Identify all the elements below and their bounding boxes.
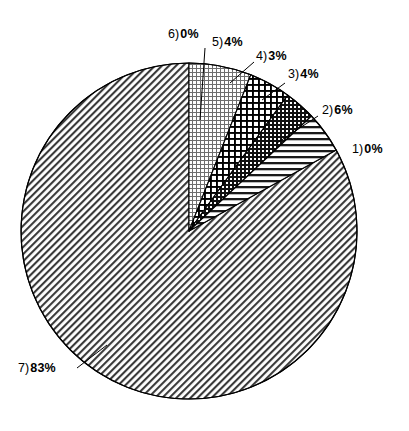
pie-label-slice-6: 6)0% bbox=[168, 28, 199, 41]
pie-label-index-1: 1) bbox=[352, 142, 363, 156]
pie-label-percent-2: 6% bbox=[334, 103, 352, 117]
pie-label-percent-1: 0% bbox=[364, 142, 382, 156]
pie-chart-canvas bbox=[0, 0, 409, 431]
pie-label-percent-3: 4% bbox=[300, 67, 318, 81]
pie-label-percent-6: 0% bbox=[180, 27, 198, 41]
pie-label-slice-2: 2)6% bbox=[322, 104, 353, 117]
pie-label-slice-1: 1)0% bbox=[352, 143, 383, 156]
pie-label-index-4: 4) bbox=[256, 49, 267, 63]
pie-label-index-5: 5) bbox=[212, 35, 223, 49]
pie-label-percent-5: 4% bbox=[224, 35, 242, 49]
pie-chart: 6)0% 5)4% 4)3% 3)4% 2)6% 1)0% 7)83% bbox=[0, 0, 409, 431]
pie-label-percent-7: 83% bbox=[30, 361, 55, 375]
pie-label-index-2: 2) bbox=[322, 103, 333, 117]
pie-label-index-3: 3) bbox=[288, 67, 299, 81]
pie-slices bbox=[21, 63, 357, 399]
pie-label-percent-4: 3% bbox=[268, 49, 286, 63]
pie-label-slice-5: 5)4% bbox=[212, 36, 243, 49]
pie-label-slice-3: 3)4% bbox=[288, 68, 319, 81]
pie-label-index-6: 6) bbox=[168, 27, 179, 41]
pie-label-index-7: 7) bbox=[18, 361, 29, 375]
pie-label-slice-7: 7)83% bbox=[18, 362, 56, 375]
pie-label-slice-4: 4)3% bbox=[256, 50, 287, 63]
